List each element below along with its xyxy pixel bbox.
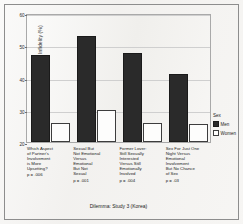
bar-men-group-4 bbox=[169, 74, 188, 142]
y-tick-label-50: 50 bbox=[19, 45, 24, 50]
p-value-annotation-2: p = .001 bbox=[73, 178, 117, 183]
bar-group-2 bbox=[73, 15, 119, 142]
bar-women-group-1 bbox=[51, 123, 70, 142]
bar-women-group-4 bbox=[189, 124, 208, 142]
bar-women-group-2 bbox=[97, 110, 116, 142]
bar-groups bbox=[27, 15, 210, 142]
y-tick-mark-20 bbox=[25, 144, 27, 145]
y-axis-title: More Distress to Sexual Infidelity (%) bbox=[37, 3, 43, 133]
p-value-annotation-1: p = .006 bbox=[27, 172, 71, 177]
x-axis-label-line: Sexual bbox=[73, 171, 117, 176]
plot-area: 2030405060 More Distress to Sexual Infid… bbox=[26, 14, 211, 143]
legend: Sex Men Women bbox=[213, 113, 241, 139]
x-axis-label-4: Sex For Just OneNight VersusEmotionalInv… bbox=[166, 146, 210, 183]
x-axis-category-labels: Which Aspectof Partner'sInvolvementis Mo… bbox=[26, 146, 211, 198]
p-value-annotation-3: p = .004 bbox=[120, 178, 164, 183]
y-tick-label-20: 20 bbox=[19, 142, 24, 147]
bar-men-group-3 bbox=[123, 53, 142, 142]
legend-item-women: Women bbox=[213, 130, 241, 136]
y-tick-label-30: 30 bbox=[19, 109, 24, 114]
bar-group-1 bbox=[27, 15, 73, 142]
bar-group-4 bbox=[166, 15, 212, 142]
x-axis-title: Dilemma: Study 3 (Korea) bbox=[26, 203, 211, 209]
bar-group-3 bbox=[120, 15, 166, 142]
x-axis-label-3: Former Lover:Still SexuallyInterestedVer… bbox=[120, 146, 164, 183]
figure-container: 2030405060 More Distress to Sexual Infid… bbox=[0, 0, 243, 224]
bar-women-group-3 bbox=[143, 123, 162, 142]
x-axis-label-line: of Sex bbox=[166, 171, 210, 176]
y-tick-label-40: 40 bbox=[19, 77, 24, 82]
y-tick-label-60: 60 bbox=[19, 13, 24, 18]
legend-swatch-women bbox=[213, 130, 219, 136]
bar-men-group-2 bbox=[77, 36, 96, 142]
x-axis-label-line: Involved bbox=[120, 171, 164, 176]
legend-swatch-men bbox=[213, 121, 219, 127]
x-axis-label-2: Sexual ButNot EmotionalVersusEmotionalBu… bbox=[73, 146, 117, 183]
legend-item-men: Men bbox=[213, 121, 241, 127]
p-value-annotation-4: p = .03 bbox=[166, 178, 210, 183]
x-axis-label-1: Which Aspectof Partner'sInvolvementis Mo… bbox=[27, 146, 71, 178]
legend-title: Sex bbox=[213, 113, 241, 118]
legend-label-men: Men bbox=[221, 122, 230, 127]
x-axis-label-line: Upsetting? bbox=[27, 166, 71, 171]
legend-label-women: Women bbox=[221, 131, 236, 136]
